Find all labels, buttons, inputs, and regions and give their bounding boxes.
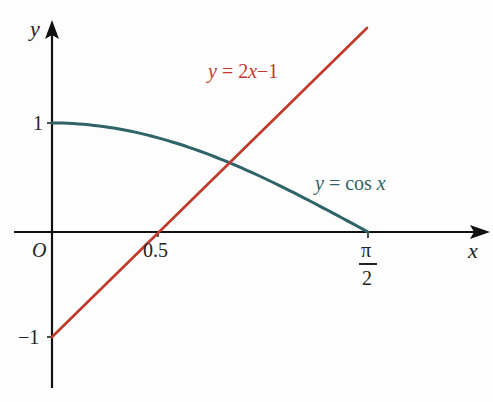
tick-label-minus-1: −1	[18, 327, 39, 347]
linear-label-rest: −1	[257, 60, 278, 82]
cos-label-x: x	[377, 172, 386, 194]
linear-label-eq: = 2	[222, 60, 248, 82]
figure: y x O 1 −1 0.5 π 2 y = 2x−1 y = cos x	[0, 0, 493, 402]
linear-series-label: y = 2x−1	[208, 61, 278, 81]
tick-label-1: 1	[33, 113, 43, 133]
linear-label-y: y	[208, 60, 217, 82]
fraction-bar	[359, 263, 377, 265]
cos-label-y: y	[315, 172, 324, 194]
tick-label-pi: π	[361, 240, 371, 260]
tick-label-two: 2	[362, 268, 372, 288]
x-axis-label: x	[468, 240, 478, 262]
cos-label-eq: = cos	[329, 172, 377, 194]
tick-label-half: 0.5	[143, 240, 168, 260]
origin-label: O	[32, 240, 46, 260]
y-axis-label: y	[30, 18, 40, 40]
linear-label-x: x	[248, 60, 257, 82]
cos-series-label: y = cos x	[315, 173, 386, 193]
